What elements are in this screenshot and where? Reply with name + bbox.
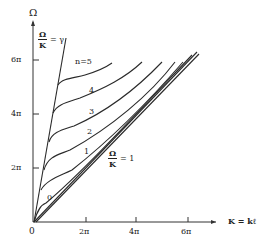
unity-denominator: K xyxy=(109,160,116,168)
label-n5: n=5 xyxy=(75,58,92,66)
y-tick-label-4pi: 4π xyxy=(11,110,21,118)
gamma-fraction: Ω K xyxy=(38,30,47,49)
label-n1: 1 xyxy=(84,148,89,156)
gamma-denominator: K xyxy=(39,41,46,49)
y-tick-label-6pi: 6π xyxy=(11,56,21,64)
curve-n5 xyxy=(58,63,112,85)
y-axis-label: Ω xyxy=(29,8,37,18)
unity-equals: = 1 xyxy=(120,154,134,163)
label-n2: 2 xyxy=(87,128,92,136)
curve-n4 xyxy=(53,62,142,113)
x-tick-label-2pi: 2π xyxy=(79,228,89,236)
label-n4: 4 xyxy=(89,87,94,95)
unity-fraction: Ω K xyxy=(108,149,117,168)
line-omega-over-k-one-b xyxy=(36,54,199,222)
curve-n3 xyxy=(49,62,162,142)
y-tick-label-2pi: 2π xyxy=(11,164,21,172)
origin-label: 0 xyxy=(29,227,35,236)
unity-numerator: Ω xyxy=(109,149,116,157)
x-tick-label-6pi: 6π xyxy=(181,228,191,236)
line-omega-over-k-one xyxy=(34,52,197,222)
y-axis-arrow-icon xyxy=(31,20,35,26)
x-axis-label: K = kℓ xyxy=(228,217,256,225)
x-axis-arrow-icon xyxy=(211,220,216,224)
label-n0: 0 xyxy=(47,194,52,202)
x-tick-label-4pi: 4π xyxy=(129,228,139,236)
gamma-equals: = γ xyxy=(50,35,64,44)
label-n3: 3 xyxy=(89,108,94,116)
gamma-numerator: Ω xyxy=(39,30,46,38)
